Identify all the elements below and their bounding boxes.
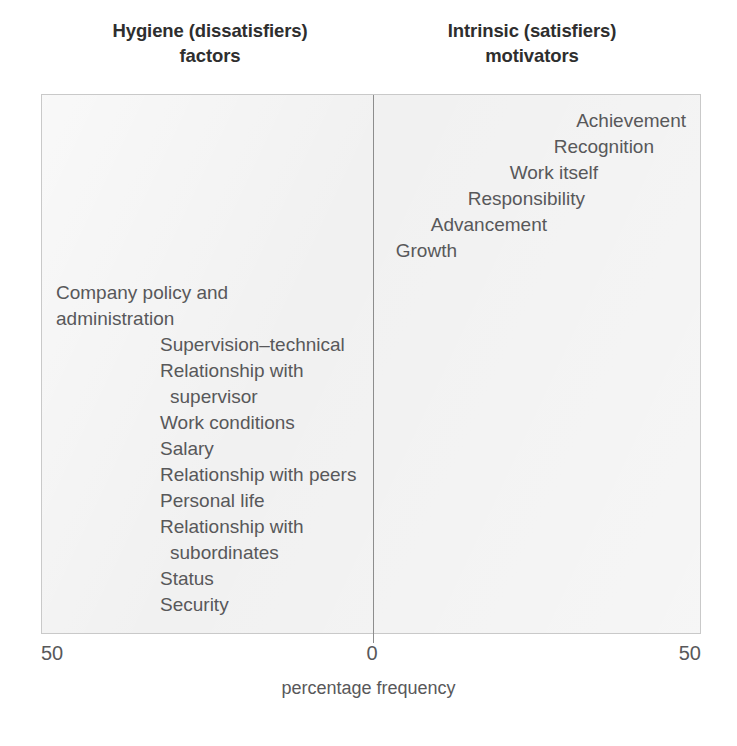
hygiene-item: Relationship with peers [42, 462, 372, 488]
hygiene-item: Status [42, 566, 372, 592]
hygiene-item: administration [42, 306, 372, 332]
column-headers: Hygiene (dissatisfiers)factors Intrinsic… [0, 18, 737, 80]
x-axis: 50 0 50 [0, 640, 737, 670]
hygiene-item: Salary [42, 436, 372, 462]
hygiene-lines: Company policy andadministrationSupervis… [42, 280, 372, 618]
motivator-item: Recognition [374, 134, 702, 160]
hygiene-factor-list: Company policy andadministrationSupervis… [42, 95, 372, 108]
intrinsic-motivator-list: AchievementRecognitionWork itselfRespons… [374, 95, 702, 264]
hygiene-item: Relationship with [42, 358, 372, 384]
hygiene-item: Personal life [42, 488, 372, 514]
motivator-item: Work itself [374, 160, 702, 186]
motivator-item: Advancement [374, 212, 702, 238]
hygiene-item: Company policy and [42, 280, 372, 306]
axis-tick-left-50: 50 [41, 640, 121, 666]
axis-tick-right-50: 50 [621, 640, 701, 666]
motivator-item: Achievement [374, 108, 702, 134]
hygiene-item: supervisor [42, 384, 372, 410]
axis-title-percentage-frequency: percentage frequency [0, 678, 737, 699]
hygiene-item: subordinates [42, 540, 372, 566]
motivator-item: Growth [374, 238, 702, 264]
header-hygiene-factors: Hygiene (dissatisfiers)factors [100, 18, 320, 68]
hygiene-item: Work conditions [42, 410, 372, 436]
header-intrinsic-motivators: Intrinsic (satisfiers)motivators [422, 18, 642, 68]
motivator-item: Responsibility [374, 186, 702, 212]
hygiene-item: Relationship with [42, 514, 372, 540]
axis-tick-zero: 0 [332, 640, 412, 666]
zero-axis-divider [373, 95, 374, 643]
hygiene-item: Security [42, 592, 372, 618]
chart-plot-area: Company policy andadministrationSupervis… [41, 94, 701, 634]
hygiene-item: Supervision–technical [42, 332, 372, 358]
